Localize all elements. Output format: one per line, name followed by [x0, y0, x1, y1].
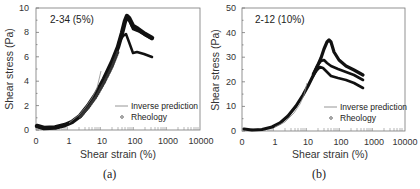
chart-b-svg: 0 10 20 30 40 50 0 1 10 100 1000 10000 S… [210, 0, 420, 189]
legend: Inverse prediction Rheology [324, 102, 407, 123]
y-tick-label: 0 [24, 125, 29, 135]
legend-label-rheology: Rheology [340, 113, 377, 123]
legend-label-prediction: Inverse prediction [131, 101, 198, 111]
y-tick-label: 4 [24, 76, 29, 86]
y-tick-label: 10 [226, 101, 236, 111]
x-tick-label: 1 [272, 137, 277, 147]
caption-a: (a) [103, 167, 116, 182]
y-tick-labels: 0 2 4 6 8 10 [19, 3, 29, 135]
legend-label-prediction: Inverse prediction [340, 102, 407, 112]
x-tick-labels: 0 1 10 100 1000 10000 [239, 137, 417, 147]
chart-panel-b: 0 10 20 30 40 50 0 1 10 100 1000 10000 S… [210, 0, 420, 189]
x-tick-labels: 0 1 10 100 1000 10000 [33, 136, 213, 146]
x-tick-label: 10 [97, 136, 107, 146]
y-tick-label: 2 [24, 101, 29, 111]
x-tick-label: 1 [66, 136, 71, 146]
chart-a-svg: 0 2 4 6 8 10 0 1 10 100 1000 10000 Shear… [0, 0, 210, 189]
x-tick-label: 1000 [364, 137, 384, 147]
y-axis [242, 8, 245, 131]
y-tick-label: 0 [231, 126, 236, 136]
x-axis-title: Shear strain (%) [80, 148, 156, 160]
caption-b: (b) [312, 167, 326, 182]
legend-marker-icon [121, 116, 124, 119]
y-tick-label: 30 [226, 52, 236, 62]
y-tick-label: 50 [226, 3, 236, 13]
y-tick-label: 10 [19, 3, 29, 13]
legend-marker-icon [330, 117, 333, 120]
legend: Inverse prediction Rheology [115, 101, 198, 122]
x-tick-label: 0 [33, 136, 38, 146]
x-tick-label: 1000 [158, 136, 178, 146]
y-tick-label: 40 [226, 28, 236, 38]
y-axis [36, 8, 39, 130]
legend-label-rheology: Rheology [131, 112, 168, 122]
x-axis [46, 127, 198, 130]
x-tick-label: 10000 [392, 137, 417, 147]
x-tick-label: 0 [239, 137, 244, 147]
x-tick-label: 100 [127, 136, 142, 146]
plot-frame [36, 8, 200, 130]
x-tick-label: 100 [333, 137, 348, 147]
sample-annotation: 2-12 (10%) [255, 14, 304, 25]
x-axis-title: Shear strain (%) [292, 148, 368, 160]
x-tick-label: 10 [303, 137, 313, 147]
y-axis-title: Shear stress (Pa) [3, 28, 15, 110]
inverse-prediction-line [275, 83, 307, 127]
y-tick-labels: 0 10 20 30 40 50 [226, 3, 236, 136]
y-tick-label: 6 [24, 52, 29, 62]
chart-panel-a: 0 2 4 6 8 10 0 1 10 100 1000 10000 Shear… [0, 0, 210, 189]
sample-annotation: 2-34 (5%) [50, 14, 94, 25]
y-axis-title: Shear stress (Pa) [209, 29, 221, 111]
y-tick-label: 20 [226, 77, 236, 87]
x-axis [252, 128, 402, 131]
y-tick-label: 8 [24, 27, 29, 37]
